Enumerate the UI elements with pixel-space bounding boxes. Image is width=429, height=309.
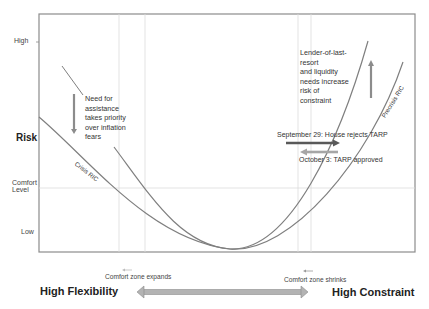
- left-note: Need for assistance takes priority over …: [85, 94, 145, 142]
- right-note-line: constraint: [300, 96, 370, 106]
- flexibility-constraint-arrow-shaft: [143, 290, 302, 295]
- left-note-line: takes priority: [85, 113, 145, 123]
- constraint-arrowhead-right: [301, 286, 308, 298]
- right-note-line: risk of: [300, 86, 370, 96]
- y-tick-low: Low: [21, 228, 34, 235]
- left-down-arrowhead: [71, 129, 77, 134]
- right-note: Lender-of-last- resort and liquidity nee…: [300, 48, 370, 105]
- sept29-label: September 29: House rejects TARP: [277, 131, 388, 138]
- left-note-line: Need for: [85, 94, 145, 104]
- left-note-line: fears: [85, 132, 145, 142]
- flexibility-arrowhead-left: [137, 286, 144, 298]
- y-tick-comfort: Comfort Level: [12, 179, 37, 193]
- right-note-line: and liquidity: [300, 67, 370, 77]
- expands-small-arrowhead: [122, 269, 125, 272]
- diagram-canvas: [0, 0, 429, 309]
- left-note-line: over inflation: [85, 123, 145, 133]
- comfort-zone-expands-label: Comfort zone expands: [105, 273, 171, 280]
- y-tick-high: High: [14, 37, 28, 44]
- oct3-label: October 3: TARP approved: [299, 156, 383, 163]
- y-axis-title: Risk: [16, 132, 37, 143]
- y-tick-comfort-line2: Level: [12, 186, 37, 193]
- right-note-line: resort: [300, 58, 370, 68]
- oct3-arrowhead: [300, 149, 307, 156]
- left-note-line: assistance: [85, 104, 145, 114]
- right-note-line: needs increase: [300, 77, 370, 87]
- high-constraint-label: High Constraint: [332, 286, 415, 298]
- y-tick-comfort-line1: Comfort: [12, 179, 37, 186]
- right-note-line: Lender-of-last-: [300, 48, 370, 58]
- shrinks-small-arrowhead: [303, 270, 306, 273]
- high-flexibility-label: High Flexibility: [40, 285, 118, 297]
- left-note-leader: [62, 66, 83, 95]
- sept29-arrowhead: [333, 140, 340, 147]
- comfort-zone-shrinks-label: Comfort zone shrinks: [284, 276, 346, 283]
